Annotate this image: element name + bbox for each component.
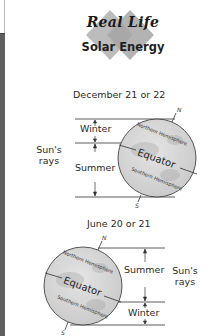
june-suns-rays-label: Sun's rays bbox=[168, 265, 202, 287]
december-winter-label: Winter bbox=[80, 123, 111, 134]
june-title: June 20 or 21 bbox=[87, 218, 151, 229]
svg-text:S: S bbox=[61, 329, 65, 336]
svg-text:N: N bbox=[102, 234, 107, 241]
svg-text:S: S bbox=[135, 202, 139, 209]
svg-text:N: N bbox=[177, 106, 182, 113]
december-summer-label: Summer bbox=[75, 162, 115, 173]
june-summer-label: Summer bbox=[124, 264, 164, 275]
december-suns-rays-label: Sun's rays bbox=[32, 144, 66, 166]
june-winter-label: Winter bbox=[128, 307, 159, 318]
